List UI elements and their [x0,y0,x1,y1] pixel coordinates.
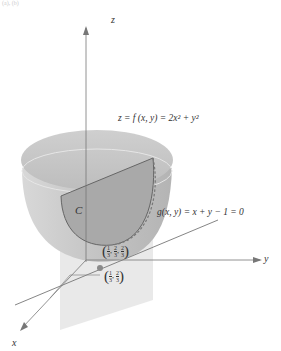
constraint-equation: g(x, y) = x + y − 1 = 0 [157,207,244,217]
y-axis-arrow-icon [253,257,262,263]
p3-x-num: 1 [107,245,110,252]
z-axis-arrow-icon [83,26,89,35]
p3-x-den: 3 [107,252,110,258]
surface-equation: z = f (x, y) = 2x² + y² [118,113,199,123]
p2-x-den: 3 [109,277,112,283]
y-axis-label: y [264,253,268,264]
curve-c-label: C [75,204,82,216]
p3-y-den: 3 [114,252,117,258]
point-3d-label: (13, 23, 23) [102,243,129,260]
x-axis-label: x [12,337,16,348]
point-2d [97,265,103,271]
p2-x-num: 1 [109,270,112,277]
z-axis-label: z [111,14,115,25]
point-2d-label: (13, 23) [104,268,124,285]
diagram-canvas [0,0,281,351]
p3-y-num: 2 [114,245,117,252]
